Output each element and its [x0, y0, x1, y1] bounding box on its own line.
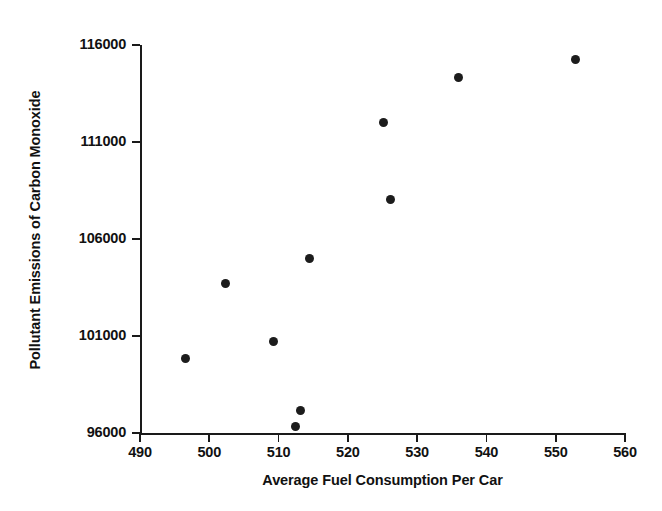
data-point: [571, 55, 580, 64]
x-tick-label: 510: [255, 444, 303, 460]
y-tick-label-wrap: 111000: [48, 133, 126, 151]
y-tick-mark: [132, 335, 140, 337]
x-tick-label: 560: [601, 444, 649, 460]
data-point: [386, 195, 395, 204]
data-point: [454, 73, 463, 82]
x-tick-mark: [486, 434, 488, 442]
y-tick-mark: [132, 238, 140, 240]
y-tick-label: 111000: [52, 133, 126, 149]
y-tick-mark: [132, 141, 140, 143]
x-tick-label: 550: [532, 444, 580, 460]
y-tick-label-wrap: 101000: [48, 327, 126, 345]
x-tick-mark: [624, 434, 626, 442]
y-tick-mark: [132, 44, 140, 46]
x-axis-line: [140, 433, 626, 435]
x-tick-label: 530: [393, 444, 441, 460]
y-tick-label: 106000: [52, 230, 126, 246]
plot-area: 96000101000106000111000116000 4905005105…: [0, 0, 662, 511]
x-tick-label: 520: [324, 444, 372, 460]
x-tick-mark: [208, 434, 210, 442]
data-point: [296, 406, 305, 415]
x-tick-mark: [139, 434, 141, 442]
y-axis-title: Pollutant Emissions of Carbon Monoxide: [22, 5, 48, 455]
x-tick-mark: [347, 434, 349, 442]
y-tick-label-wrap: 116000: [48, 36, 126, 54]
x-tick-mark: [555, 434, 557, 442]
data-point: [379, 118, 388, 127]
x-tick-label: 490: [116, 444, 164, 460]
x-tick-label: 540: [462, 444, 510, 460]
data-point: [269, 337, 278, 346]
y-tick-label-wrap: 96000: [48, 424, 126, 442]
y-tick-label-wrap: 106000: [48, 230, 126, 248]
data-point: [291, 422, 300, 431]
x-tick-label: 500: [185, 444, 233, 460]
y-tick-label: 96000: [52, 424, 126, 440]
x-tick-mark: [278, 434, 280, 442]
data-point: [221, 279, 230, 288]
x-tick-mark: [416, 434, 418, 442]
x-axis-title: Average Fuel Consumption Per Car: [140, 472, 625, 488]
data-point: [305, 254, 314, 263]
y-tick-label: 101000: [52, 327, 126, 343]
scatter-plot-figure: 96000101000106000111000116000 4905005105…: [0, 0, 662, 511]
data-point: [181, 354, 190, 363]
y-tick-label: 116000: [52, 36, 126, 52]
y-axis-line: [140, 45, 142, 434]
